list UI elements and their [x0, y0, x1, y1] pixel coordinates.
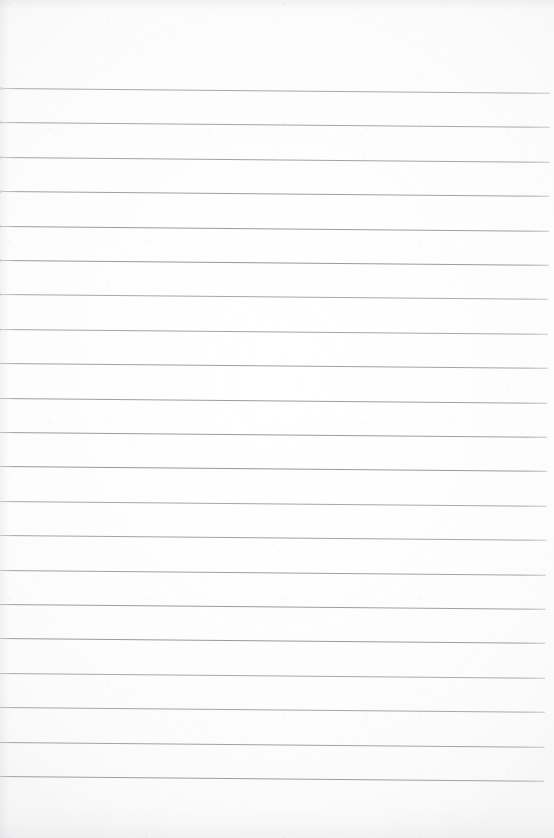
ruled-line [0, 432, 547, 438]
ruled-line [0, 535, 546, 541]
ruled-line [0, 742, 545, 748]
ruled-lines-group [0, 0, 554, 838]
ruled-line [0, 329, 548, 335]
ruled-line [0, 673, 545, 679]
ruled-line [0, 363, 548, 369]
ruled-line [0, 638, 545, 644]
ruled-line [0, 501, 547, 507]
ruled-line [0, 294, 548, 300]
ruled-line [2, 122, 550, 128]
ruled-line [2, 157, 550, 163]
ruled-line [1, 191, 549, 197]
ruled-line [0, 398, 548, 404]
ruled-line [0, 776, 544, 782]
scanned-page [0, 0, 554, 838]
ruled-line [0, 707, 545, 713]
ruled-line [1, 226, 549, 232]
ruled-line [0, 570, 546, 576]
ruled-line [0, 604, 546, 610]
ruled-line [2, 88, 550, 94]
ruled-line [1, 260, 549, 266]
ruled-line [0, 466, 547, 472]
